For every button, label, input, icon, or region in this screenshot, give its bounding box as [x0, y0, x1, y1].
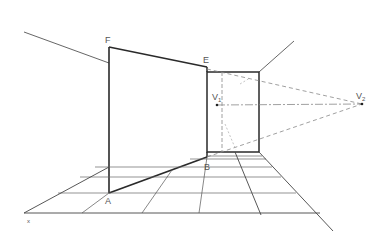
dashed-horizon	[217, 104, 362, 105]
dashed-top-to-V2	[207, 69, 362, 104]
perspective-diagram: F E B A V1 V2 x	[0, 0, 391, 248]
dashed-diag-lower	[225, 124, 236, 150]
right-ceiling-line	[259, 41, 294, 72]
dashed-bottom-to-V2	[207, 104, 362, 157]
label-B: B	[204, 162, 210, 172]
label-V1: V1	[212, 92, 222, 103]
V2-point	[361, 103, 364, 106]
label-F: F	[105, 35, 111, 45]
dashed-diag-upper	[240, 78, 250, 84]
floor-right-edge	[259, 152, 333, 231]
label-V2: V2	[356, 91, 366, 102]
label-E: E	[203, 55, 209, 65]
label-A: A	[105, 196, 111, 206]
V1-point	[216, 104, 219, 107]
floor-left-edge	[24, 167, 109, 213]
back-wall-rect	[207, 72, 259, 152]
left-ceiling-line	[24, 32, 109, 63]
corner-mark: x	[27, 218, 30, 224]
front-wall-panel	[109, 47, 207, 193]
floor-col-4	[235, 152, 261, 215]
